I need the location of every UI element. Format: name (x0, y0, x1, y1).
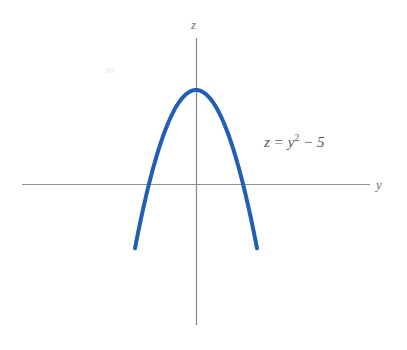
equation-exponent: 2 (294, 133, 299, 143)
plot-canvas (0, 0, 407, 350)
parabola-figure: z y z = y2 − 5 (0, 0, 407, 350)
equation-annotation: z = y2 − 5 (264, 134, 325, 151)
equation-equals-sign: = (274, 134, 284, 150)
equation-lhs: z (264, 134, 270, 150)
horizontal-axis-label: y (376, 178, 382, 191)
equation-constant: 5 (317, 134, 325, 150)
vertical-axis-label: z (191, 18, 196, 31)
equation-minus-sign: − (303, 134, 313, 150)
